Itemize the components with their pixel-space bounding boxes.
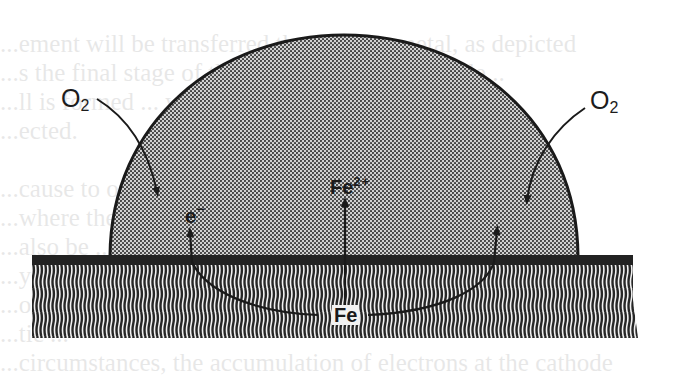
iron-symbol: Fe — [334, 304, 357, 326]
oxygen-label-left: O2 — [61, 86, 89, 114]
electron-label: e− — [185, 202, 204, 226]
oxygen-symbol: O — [61, 84, 80, 112]
electron-charge: − — [196, 201, 204, 217]
iron-label: Fe — [332, 305, 359, 325]
metal-surface-line — [32, 255, 633, 265]
oxygen-subscript: 2 — [80, 97, 89, 114]
electron-symbol: e — [185, 205, 196, 227]
metal-substrate — [32, 264, 638, 338]
oxygen-symbol: O — [590, 86, 609, 114]
oxygen-subscript: 2 — [609, 99, 618, 116]
oxygen-label-right: O2 — [590, 88, 618, 116]
ferrous-ion-charge: 2+ — [353, 174, 370, 189]
ferrous-ion-symbol: Fe — [330, 176, 353, 198]
ferrous-ion-label: Fe2+ — [330, 175, 370, 197]
